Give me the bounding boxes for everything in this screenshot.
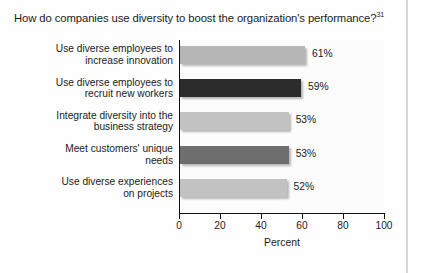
x-tick-80 [343, 214, 344, 219]
x-tick-label-0: 0 [176, 220, 182, 231]
x-tick-label-100: 100 [376, 220, 393, 231]
x-tick-60 [302, 214, 303, 219]
bar [180, 179, 287, 197]
bar-value-label: 53% [296, 114, 317, 125]
category-label: Use diverse employees toincrease innovat… [9, 43, 179, 66]
category-label-line: Meet customers' unique [9, 143, 173, 155]
x-tick-label-80: 80 [337, 220, 348, 231]
bar-value-label: 61% [312, 48, 333, 59]
x-axis-line [179, 213, 385, 214]
category-label-line: recruit new workers [9, 88, 173, 100]
category-label: Use diverse experienceson projects [9, 176, 179, 199]
bar-value-label: 53% [296, 148, 317, 159]
category-labels: Use diverse employees toincrease innovat… [0, 0, 179, 273]
bar [180, 46, 305, 64]
category-label-line: Integrate diversity into the [9, 110, 173, 122]
x-tick-100 [384, 214, 385, 219]
x-tick-0 [179, 214, 180, 219]
category-label-line: Use diverse experiences [9, 176, 173, 188]
category-label-line: Use diverse employees to [9, 43, 173, 55]
bar [180, 79, 301, 97]
x-tick-label-40: 40 [255, 220, 266, 231]
chart-figure: How do companies use diversity to boost … [0, 0, 426, 273]
category-label-line: business strategy [9, 121, 173, 133]
category-label-line: on projects [9, 188, 173, 200]
bar-value-label: 52% [294, 181, 315, 192]
page-edge-rule [406, 0, 408, 273]
category-label-line: Use diverse employees to [9, 77, 173, 89]
category-label: Use diverse employees torecruit new work… [9, 77, 179, 100]
bar [180, 146, 289, 164]
x-tick-label-60: 60 [296, 220, 307, 231]
x-axis-label: Percent [179, 237, 385, 248]
x-tick-40 [261, 214, 262, 219]
bar-value-label: 59% [308, 81, 329, 92]
category-label-line: increase innovation [9, 55, 173, 67]
x-tick-20 [220, 214, 221, 219]
category-label: Integrate diversity into thebusiness str… [9, 110, 179, 133]
category-label: Meet customers' uniqueneeds [9, 143, 179, 166]
x-tick-label-20: 20 [214, 220, 225, 231]
chart-title-footnote-ref: 31 [376, 10, 384, 19]
category-label-line: needs [9, 155, 173, 167]
bar [180, 112, 289, 130]
